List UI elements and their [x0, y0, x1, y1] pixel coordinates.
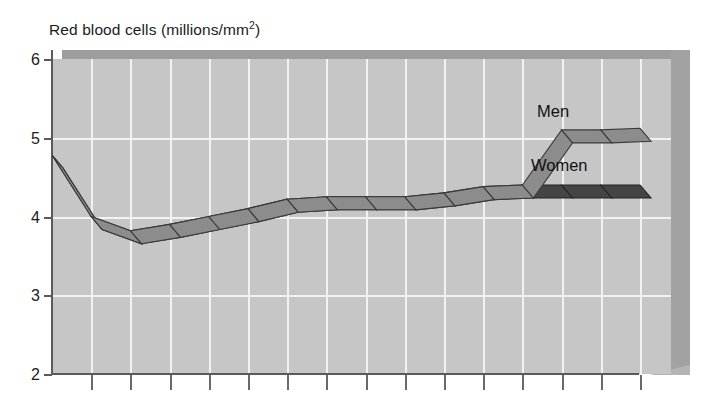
y-tick-mark — [44, 295, 52, 297]
plot-shell — [52, 50, 690, 374]
gridline-vertical — [483, 59, 485, 374]
plot-ceiling-slab — [62, 50, 690, 59]
series-label-women: Women — [531, 156, 588, 175]
gridline-vertical — [640, 59, 642, 374]
gridline-horizontal — [52, 217, 671, 219]
x-tick-mark — [405, 375, 407, 390]
x-tick-mark — [483, 375, 485, 390]
y-tick-label: 3 — [10, 287, 40, 305]
x-tick-mark — [562, 375, 564, 390]
series-label-men: Men — [537, 102, 569, 121]
gridline-vertical — [366, 59, 368, 374]
plot-area — [52, 59, 671, 374]
x-tick-mark — [248, 375, 250, 390]
gridline-vertical — [91, 59, 93, 374]
y-tick-mark — [44, 59, 52, 61]
x-tick-mark — [287, 375, 289, 390]
x-axis-line — [51, 373, 639, 375]
y-axis-title: Red blood cells (millions/mm2) — [49, 21, 260, 39]
y-axis-title-tail: ) — [255, 21, 260, 38]
y-tick-label: 6 — [10, 51, 40, 69]
gridline-vertical — [170, 59, 172, 374]
x-tick-mark — [326, 375, 328, 390]
y-axis-line — [51, 50, 53, 374]
y-axis-title-base: Red blood cells (millions/mm — [49, 21, 249, 38]
plot-right-wall-slab — [671, 50, 690, 374]
y-tick-label: 5 — [10, 130, 40, 148]
x-tick-mark — [522, 375, 524, 390]
x-tick-mark — [170, 375, 172, 390]
gridline-horizontal — [52, 295, 671, 297]
x-tick-mark — [640, 375, 642, 390]
x-tick-mark — [91, 375, 93, 390]
chart-figure: Red blood cells (millions/mm2) 65432 Men… — [0, 0, 704, 419]
gridline-vertical — [287, 59, 289, 374]
gridline-vertical — [522, 59, 524, 374]
gridline-vertical — [601, 59, 603, 374]
x-tick-mark — [366, 375, 368, 390]
y-tick-mark — [44, 217, 52, 219]
y-tick-label: 2 — [10, 366, 40, 384]
gridline-vertical — [248, 59, 250, 374]
y-tick-mark — [44, 374, 52, 376]
x-tick-mark — [601, 375, 603, 390]
x-tick-mark — [444, 375, 446, 390]
gridline-horizontal — [52, 138, 671, 140]
x-tick-mark — [209, 375, 211, 390]
y-tick-mark — [44, 138, 52, 140]
gridline-vertical — [444, 59, 446, 374]
y-tick-label: 4 — [10, 209, 40, 227]
gridline-vertical — [405, 59, 407, 374]
x-tick-mark — [130, 375, 132, 390]
gridline-vertical — [209, 59, 211, 374]
gridline-vertical — [130, 59, 132, 374]
gridline-vertical — [326, 59, 328, 374]
